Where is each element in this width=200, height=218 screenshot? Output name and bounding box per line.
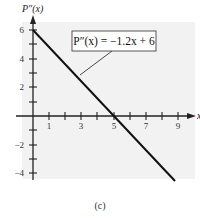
x-tick-label: 5	[112, 121, 117, 131]
y-axis-label: P″(x)	[21, 3, 44, 15]
figure-caption: (c)	[0, 200, 200, 211]
equation-label: P″(x) = −1.2x + 6	[73, 35, 155, 48]
x-tick-label: 9	[176, 121, 181, 131]
chart: P″(x) x 1 3 5 7 9 6 4 2 −2 −4	[0, 0, 200, 218]
y-axis-arrow-icon	[30, 15, 36, 24]
x-axis-label: x	[196, 110, 200, 121]
y-tick-label: 4	[20, 54, 25, 64]
y-tick-label: 2	[20, 82, 25, 92]
x-tick-label: 3	[79, 121, 84, 131]
y-tick-label: −2	[14, 140, 24, 150]
y-tick-label: −4	[14, 168, 24, 178]
x-tick-label: 1	[47, 121, 52, 131]
x-tick-label: 7	[144, 121, 149, 131]
y-tick-label: 6	[20, 25, 25, 35]
